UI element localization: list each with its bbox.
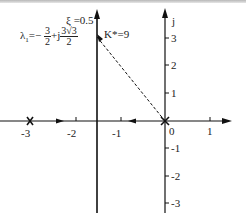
locus-arrow-right-icon bbox=[56, 119, 64, 124]
locus-arrow-left-icon bbox=[128, 119, 136, 124]
real-tick-label: -1 bbox=[112, 128, 121, 139]
imag-tick-label: -1 bbox=[171, 143, 180, 154]
imag-tick-label: 2 bbox=[171, 60, 177, 71]
gain-label: K*=9 bbox=[104, 29, 129, 40]
damping-line bbox=[97, 37, 165, 121]
real-axis-arrow-icon bbox=[222, 118, 232, 124]
equals-minus: =− bbox=[29, 29, 41, 41]
imag-tick-label: 3 bbox=[171, 33, 177, 44]
imag-tick-label: -2 bbox=[171, 171, 180, 182]
real-tick-label: 0 bbox=[169, 126, 175, 137]
fraction-3sqrt3-over-2: 3√32 bbox=[60, 26, 78, 47]
real-tick-label: -3 bbox=[21, 128, 30, 139]
imag-tick-label: 1 bbox=[171, 88, 177, 99]
real-tick-label: 1 bbox=[207, 126, 213, 137]
frac-den: 2 bbox=[44, 37, 51, 47]
plus-j: +j bbox=[51, 29, 60, 41]
real-tick-label: -2 bbox=[67, 128, 76, 139]
imag-axis-label: j bbox=[172, 16, 175, 27]
locus-up-arrow-icon bbox=[94, 9, 100, 19]
closed-loop-pole-label: λ1=− 32+j3√32 bbox=[20, 26, 78, 47]
frac-den: 2 bbox=[60, 37, 78, 47]
fraction-3-over-2: 32 bbox=[44, 26, 51, 47]
imag-axis-arrow-icon bbox=[162, 8, 168, 18]
imag-tick-label: -3 bbox=[171, 198, 180, 209]
